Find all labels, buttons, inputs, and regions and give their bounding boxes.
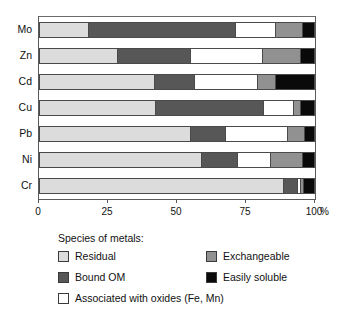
bar-row bbox=[39, 74, 315, 90]
bar-segment bbox=[194, 74, 257, 90]
bar-segment bbox=[302, 152, 315, 168]
category-label-mo: Mo bbox=[0, 23, 32, 35]
legend-label: Associated with oxides (Fe, Mn) bbox=[75, 292, 224, 305]
bar-segment bbox=[300, 48, 315, 64]
legend-item: Exchangeable bbox=[206, 250, 290, 263]
bar-segment bbox=[237, 152, 270, 168]
bar-row bbox=[39, 178, 315, 194]
bar-row bbox=[39, 48, 315, 64]
bar-segment bbox=[275, 22, 302, 38]
legend-swatch-icon bbox=[206, 251, 217, 262]
bar-segment bbox=[190, 48, 262, 64]
bar-segment bbox=[270, 152, 302, 168]
bar-segment bbox=[39, 22, 88, 38]
legend-swatch-icon bbox=[58, 272, 69, 283]
stacked-bar-chart-figure: MoZnCdCuPbNiCr 0255075100 % Species of m… bbox=[0, 0, 350, 316]
bar-segment bbox=[39, 178, 283, 194]
category-label-pb: Pb bbox=[0, 127, 32, 139]
bar-segment bbox=[300, 100, 315, 116]
legend-label: Residual bbox=[75, 250, 116, 263]
bar-segment bbox=[287, 126, 304, 142]
x-tick-label-0: 0 bbox=[35, 206, 41, 218]
x-tick-label-25: 25 bbox=[101, 206, 112, 218]
bar-segment bbox=[262, 48, 300, 64]
legend-item: Bound OM bbox=[58, 271, 125, 284]
legend-swatch-icon bbox=[58, 251, 69, 262]
bar-row bbox=[39, 100, 315, 116]
bar-segment bbox=[39, 152, 201, 168]
legend-label: Exchangeable bbox=[223, 250, 290, 263]
bar-segment bbox=[190, 126, 225, 142]
bar-segment bbox=[235, 22, 275, 38]
bar-segment bbox=[117, 48, 190, 64]
bar-segment bbox=[302, 22, 315, 38]
plot-area bbox=[38, 16, 316, 200]
bar-segment bbox=[39, 74, 154, 90]
legend-swatch-icon bbox=[58, 293, 69, 304]
bar-segment bbox=[39, 126, 190, 142]
bar-segment bbox=[154, 74, 194, 90]
legend-item: Residual bbox=[58, 250, 116, 263]
bar-segment bbox=[257, 74, 275, 90]
bar-segment bbox=[39, 48, 117, 64]
bar-segment bbox=[201, 152, 237, 168]
x-axis-unit-label: % bbox=[320, 206, 329, 218]
bar-segment bbox=[283, 178, 297, 194]
bar-segment bbox=[88, 22, 235, 38]
legend-items: ResidualBound OMAssociated with oxides (… bbox=[58, 250, 344, 308]
bar-segment bbox=[303, 178, 315, 194]
bar-segment bbox=[155, 100, 263, 116]
category-label-zn: Zn bbox=[0, 49, 32, 61]
bar-segment bbox=[304, 126, 315, 142]
legend-item: Easily soluble bbox=[206, 271, 287, 284]
category-label-cr: Cr bbox=[0, 179, 32, 191]
bar-segment bbox=[293, 100, 300, 116]
category-label-cd: Cd bbox=[0, 75, 32, 87]
bar-row bbox=[39, 126, 315, 142]
bar-row bbox=[39, 22, 315, 38]
legend-title: Species of metals: bbox=[58, 232, 344, 245]
legend-label: Easily soluble bbox=[223, 271, 287, 284]
category-label-cu: Cu bbox=[0, 101, 32, 113]
legend-swatch-icon bbox=[206, 272, 217, 283]
x-tick-label-50: 50 bbox=[170, 206, 181, 218]
legend-item: Associated with oxides (Fe, Mn) bbox=[58, 292, 224, 305]
x-axis-line bbox=[38, 199, 315, 200]
bar-row bbox=[39, 152, 315, 168]
bar-segment bbox=[39, 100, 155, 116]
bar-segment bbox=[275, 74, 315, 90]
legend-label: Bound OM bbox=[75, 271, 125, 284]
bar-segment bbox=[263, 100, 293, 116]
category-label-ni: Ni bbox=[0, 153, 32, 165]
legend: Species of metals: ResidualBound OMAssoc… bbox=[58, 232, 344, 308]
bar-segment bbox=[225, 126, 287, 142]
x-tick-label-75: 75 bbox=[239, 206, 250, 218]
